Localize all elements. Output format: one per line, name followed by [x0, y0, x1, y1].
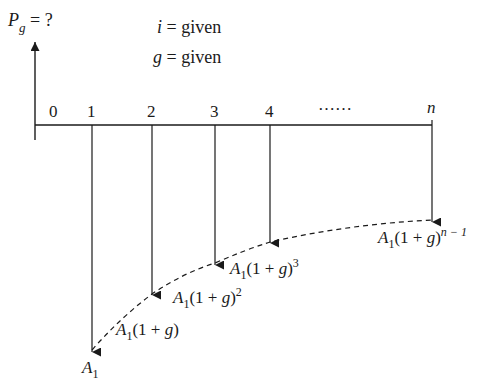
tick-n: n	[427, 98, 436, 117]
tick-3: 3	[210, 102, 219, 121]
geometric-gradient-cash-flow-diagram: Pg = ? i = given g = given 0 1 2 3 4 …… …	[0, 0, 495, 389]
cash-flow-label-2: A1(1 + g)	[115, 320, 179, 343]
tick-1: 1	[87, 102, 96, 121]
tick-4: 4	[265, 102, 274, 121]
cash-flow-label-n: A1(1 + g)n − 1	[377, 225, 467, 251]
ellipsis: ……	[318, 95, 352, 114]
tick-2: 2	[147, 102, 156, 121]
given-interest-rate: i = given	[157, 17, 221, 37]
cash-flow-label-1: A1	[81, 358, 98, 381]
cash-flow-label-3: A1(1 + g)2	[172, 285, 242, 311]
cash-flow-label-4: A1(1 + g)3	[229, 256, 299, 282]
given-growth-rate: g = given	[153, 47, 221, 67]
present-worth-label: Pg = ?	[7, 10, 53, 35]
tick-0: 0	[49, 102, 58, 121]
